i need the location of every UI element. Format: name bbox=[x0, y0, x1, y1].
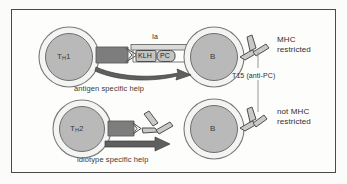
antigen-help-label: antigen specific help bbox=[74, 84, 144, 93]
th2-cell-label: TH2 bbox=[70, 124, 84, 133]
antibody-idiotype-stem bbox=[142, 128, 158, 133]
b-cell-bottom-label: B bbox=[210, 124, 215, 133]
antibody-idiotype bbox=[142, 111, 173, 134]
ia-label: Ia bbox=[152, 33, 158, 40]
th2-receptor-stalk bbox=[108, 121, 134, 136]
diagram-canvas bbox=[0, 0, 347, 184]
t15-connector-label: T15 (anti-PC) bbox=[232, 72, 275, 79]
ia-bar-top bbox=[131, 45, 191, 51]
antigen-klh-label: KLH bbox=[138, 52, 152, 59]
mhc-restricted-line2: restricted bbox=[277, 45, 311, 55]
idiotype-help-arrow-body bbox=[105, 137, 170, 151]
th1-cell-label: TH1 bbox=[57, 52, 71, 61]
antibody-top-arm-upper bbox=[247, 35, 256, 51]
mhc-restricted-note: MHC restricted bbox=[277, 35, 311, 55]
idiotype-help-label: idiotype specific help bbox=[77, 155, 148, 164]
antigen-help-arrow-body bbox=[95, 67, 191, 80]
antibody-idiotype-arm-upper bbox=[144, 111, 158, 126]
antibody-bottom bbox=[240, 107, 267, 131]
not-mhc-restricted-line2: restricted bbox=[277, 117, 311, 127]
antibody-top bbox=[240, 35, 269, 60]
not-mhc-restricted-note: not MHC restricted bbox=[277, 107, 311, 127]
antibody-idiotype-arm-lower bbox=[156, 122, 173, 134]
antigen-pc-label: PC bbox=[160, 52, 170, 59]
antigen-help-arrow bbox=[95, 67, 191, 80]
mhc-restricted-line1: MHC bbox=[277, 35, 311, 45]
antibody-bottom-arm-upper bbox=[247, 107, 256, 122]
immunology-diagram: TH1 B Ia KLH PC antigen specific help MH… bbox=[0, 0, 347, 184]
b-cell-top-label: B bbox=[210, 52, 215, 61]
idiotype-help-arrow bbox=[105, 137, 170, 151]
th2-receptor bbox=[108, 121, 141, 136]
th1-receptor-stalk bbox=[96, 47, 128, 63]
not-mhc-restricted-line1: not MHC bbox=[277, 107, 311, 117]
